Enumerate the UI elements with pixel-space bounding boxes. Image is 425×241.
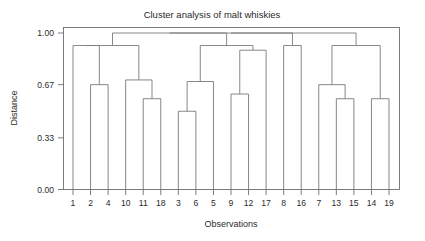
x-tick-label: 4	[106, 198, 111, 208]
x-tick-label: 11	[139, 198, 148, 208]
dendrogram-plot: Cluster analysis of malt whiskies 0.000.…	[0, 0, 425, 241]
x-tick-label: 2	[88, 198, 93, 208]
x-tick-label: 17	[261, 198, 271, 208]
y-tick-label: 0.33	[37, 133, 54, 143]
page-title: Cluster analysis of malt whiskies	[144, 9, 281, 20]
x-tick-label: 9	[229, 198, 234, 208]
x-tick-label: 7	[316, 198, 321, 208]
y-tick-label: 1.00	[37, 28, 54, 38]
y-axis-label: Distance	[9, 90, 19, 125]
x-tick-label: 14	[367, 198, 377, 208]
dendrogram-figure: Cluster analysis of malt whiskies 0.000.…	[0, 0, 425, 241]
x-tick-label: 1	[71, 198, 76, 208]
y-tick-label: 0.00	[37, 185, 54, 195]
x-tick-label: 3	[176, 198, 181, 208]
x-tick-label: 6	[193, 198, 198, 208]
x-tick-label: 5	[211, 198, 216, 208]
x-tick-label: 10	[121, 198, 131, 208]
x-tick-label: 12	[244, 198, 254, 208]
x-tick-label: 16	[296, 198, 306, 208]
x-tick-label: 15	[349, 198, 359, 208]
y-tick-label: 0.67	[37, 80, 54, 90]
x-tick-label: 8	[281, 198, 286, 208]
x-tick-label: 13	[332, 198, 342, 208]
x-tick-label: 19	[384, 198, 394, 208]
x-axis-label: Observations	[204, 219, 258, 229]
x-tick-label: 18	[156, 198, 166, 208]
